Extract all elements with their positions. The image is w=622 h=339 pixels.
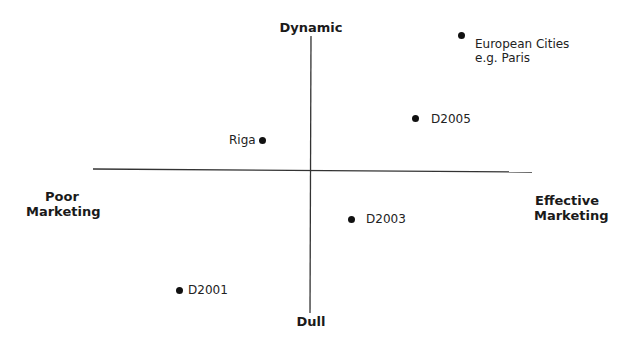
axis-label-left: Poor Marketing [26, 189, 98, 219]
axis-label-right-line1: Effective [534, 193, 600, 208]
point-d2003-label: D2003 [366, 212, 406, 226]
point-european-cities-line2: e.g. Paris [475, 51, 569, 65]
point-d2003-dot [348, 216, 355, 223]
axis-label-left-line2: Marketing [26, 204, 98, 219]
axis-label-right-line2: Marketing [534, 208, 600, 223]
perceptual-map: Dynamic Dull Poor Marketing Effective Ma… [0, 0, 622, 339]
point-riga-dot [259, 137, 266, 144]
point-d2001-dot [176, 287, 183, 294]
axis-label-bottom: Dull [286, 314, 336, 329]
axis-label-right: Effective Marketing [534, 193, 600, 223]
point-d2005-dot [412, 115, 419, 122]
point-riga-label: Riga [229, 133, 256, 147]
vertical-axis [310, 36, 311, 313]
point-european-cities-dot [458, 32, 465, 39]
point-european-cities-line1: European Cities [475, 37, 569, 51]
axis-label-top: Dynamic [276, 20, 346, 35]
point-d2005-label: D2005 [431, 112, 471, 126]
horizontal-axis [93, 169, 532, 172]
point-d2001-label: D2001 [188, 283, 228, 297]
point-european-cities-label: European Cities e.g. Paris [475, 37, 569, 65]
axis-label-left-line1: Poor [26, 189, 98, 204]
